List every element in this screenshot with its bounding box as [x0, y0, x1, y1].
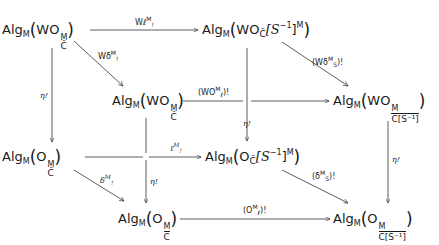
label-A-B: WℓM! [135, 16, 154, 28]
node-D: AlgM(WOMC[S⁻¹]) [333, 93, 425, 124]
node-B: AlgM(WOC̃[S−1]M) [202, 22, 310, 39]
label-C-D: (WOMℓ)! [198, 86, 229, 98]
arrow-A-C [74, 41, 123, 86]
label-E-G: δM! [100, 174, 113, 186]
node-E: AlgM(OMC̃) [2, 149, 61, 178]
node-C: AlgM(WOMC̃) [112, 93, 184, 122]
label-A-C: WδM! [98, 50, 118, 62]
label-D-H: η! [392, 156, 400, 164]
arrow-E-G [74, 170, 124, 201]
label-C-G: η! [150, 178, 158, 186]
node-H: AlgM(OMC[S⁻¹]) [333, 211, 413, 242]
label-E-F: ℓM! [170, 142, 182, 154]
node-A: AlgM(WOMC̃) [2, 22, 74, 51]
label-B-D: (WδMS)! [312, 56, 343, 68]
node-F: AlgM(OC̃[S−1]M) [205, 149, 300, 166]
label-F-H: (δMS)! [312, 170, 335, 182]
label-G-H: (OMℓ)! [243, 204, 266, 216]
label-A-E: η! [40, 92, 48, 100]
node-G: AlgM(OMC) [118, 211, 177, 242]
label-B-F: η! [243, 120, 251, 128]
